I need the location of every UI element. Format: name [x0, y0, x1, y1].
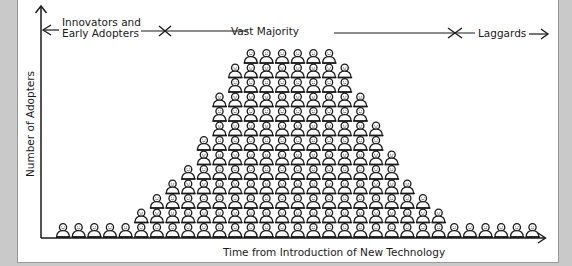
person-icon	[306, 93, 321, 106]
person-icon	[244, 224, 258, 237]
person-icon	[291, 180, 306, 193]
person-icon	[244, 166, 258, 179]
person-icon	[369, 209, 384, 222]
person-icon	[385, 166, 400, 179]
person-icon	[150, 195, 165, 208]
person-icon	[181, 166, 196, 179]
person-icon	[306, 64, 321, 77]
person-icon	[353, 209, 368, 222]
person-icon	[197, 195, 212, 208]
person-icon	[400, 195, 415, 208]
person-icon	[275, 50, 290, 63]
person-icon	[228, 108, 243, 121]
person-icon	[306, 50, 321, 63]
person-icon	[385, 195, 400, 208]
person-icon	[306, 79, 321, 92]
person-icon	[369, 224, 384, 237]
person-icon	[432, 224, 447, 237]
person-icon	[291, 93, 306, 106]
person-icon	[416, 195, 431, 208]
person-icon	[275, 79, 290, 92]
person-icon	[197, 137, 212, 150]
person-icon	[369, 195, 384, 208]
person-icon	[306, 209, 321, 222]
person-icon	[291, 151, 306, 164]
person-icon	[259, 166, 274, 179]
person-icon	[416, 209, 431, 222]
person-icon	[228, 122, 243, 135]
person-icon	[259, 64, 274, 77]
person-icon	[166, 195, 181, 208]
y-axis-label: Number of Adopters	[24, 71, 36, 177]
person-icon	[306, 137, 321, 150]
person-icon	[244, 108, 258, 121]
person-icon	[526, 224, 541, 237]
person-icon	[338, 151, 353, 164]
person-icon	[338, 209, 353, 222]
person-icon	[306, 151, 321, 164]
person-icon	[322, 50, 337, 63]
person-icon	[322, 108, 337, 121]
segment-brackets: Innovators and Early Adopters Vast Major…	[43, 16, 548, 39]
person-icon	[228, 180, 243, 193]
person-icon	[213, 166, 228, 179]
person-icon	[228, 137, 243, 150]
person-icon	[119, 224, 134, 237]
person-icon	[259, 195, 274, 208]
person-icon	[228, 209, 243, 222]
person-icon	[400, 209, 415, 222]
person-icon	[291, 195, 306, 208]
person-icon	[369, 122, 384, 135]
segment-laggards-label: Laggards	[478, 27, 526, 39]
person-icon	[291, 166, 306, 179]
person-icon	[134, 224, 149, 237]
person-icon	[306, 108, 321, 121]
person-icon	[291, 108, 306, 121]
person-icon	[306, 180, 321, 193]
person-icon	[275, 137, 290, 150]
person-icon	[275, 93, 290, 106]
person-icon	[213, 122, 228, 135]
person-icon	[338, 79, 353, 92]
segment-innovators-label-line2: Early Adopters	[62, 27, 139, 39]
person-icon	[400, 180, 415, 193]
person-icon	[306, 166, 321, 179]
person-icon	[353, 137, 368, 150]
person-icon	[369, 137, 384, 150]
person-icon	[353, 93, 368, 106]
person-icon	[369, 151, 384, 164]
person-icon	[338, 122, 353, 135]
person-icon	[56, 224, 71, 237]
person-icon	[197, 151, 212, 164]
adoption-diagram: Number of Adopters Time from Introductio…	[0, 0, 572, 266]
person-icon	[322, 180, 337, 193]
person-icon	[244, 137, 258, 150]
person-icon	[259, 180, 274, 193]
person-icon	[338, 137, 353, 150]
person-icon	[432, 209, 447, 222]
adopter-crowd	[56, 50, 540, 237]
person-icon	[353, 195, 368, 208]
person-icon	[338, 64, 353, 77]
person-icon	[322, 166, 337, 179]
person-icon	[353, 166, 368, 179]
person-icon	[275, 224, 290, 237]
segment-majority-label: Vast Majority	[231, 25, 299, 37]
person-icon	[275, 108, 290, 121]
person-icon	[400, 224, 415, 237]
person-icon	[259, 50, 274, 63]
person-icon	[197, 166, 212, 179]
person-icon	[228, 64, 243, 77]
person-icon	[322, 64, 337, 77]
person-icon	[213, 151, 228, 164]
person-icon	[181, 195, 196, 208]
person-icon	[494, 224, 509, 237]
person-icon	[338, 166, 353, 179]
person-icon	[510, 224, 524, 237]
person-icon	[463, 224, 478, 237]
person-icon	[213, 195, 228, 208]
person-icon	[259, 79, 274, 92]
person-icon	[197, 180, 212, 193]
person-icon	[306, 122, 321, 135]
person-icon	[338, 195, 353, 208]
